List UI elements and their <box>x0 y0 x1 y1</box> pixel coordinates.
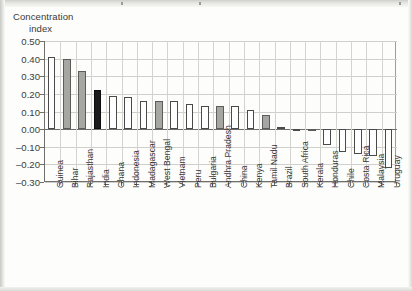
y-gridline <box>45 164 397 165</box>
y-tick-label: 0.30 <box>6 71 40 82</box>
y-tick-mark <box>40 164 44 165</box>
scan-edge-bottom <box>0 287 412 291</box>
x-tick-label: Bihar <box>70 168 80 188</box>
x-tick-label: Malaysia <box>376 154 386 188</box>
x-gridline <box>198 41 199 182</box>
y-axis-title: Concentration index <box>13 11 73 34</box>
chart-page: Concentration index 0.500.400.300.200.10… <box>0 0 412 291</box>
bar <box>124 97 132 129</box>
x-tick-label: China <box>239 165 249 188</box>
y-gridline <box>45 182 397 183</box>
y-gridline <box>45 41 397 42</box>
y-tick-label: 0.10 <box>6 106 40 117</box>
x-tick-label: Brazil <box>284 166 294 188</box>
y-tick-mark <box>40 76 44 77</box>
bar <box>247 110 255 129</box>
scan-artifact-tick <box>121 2 123 5</box>
x-tick-label: Andhra Pradesh <box>223 125 233 188</box>
x-tick-label: Kerala <box>315 163 325 188</box>
y-tick-label: 0.50 <box>6 36 40 47</box>
x-tick-label: Ghana <box>116 162 126 188</box>
x-tick-label: Guinea <box>55 160 65 188</box>
y-tick-mark <box>40 147 44 148</box>
scan-artifact-tick <box>399 2 401 5</box>
bar <box>155 101 163 129</box>
bar <box>308 129 316 131</box>
bar <box>94 90 102 129</box>
bar <box>186 104 194 129</box>
y-tick-label: –0.20 <box>6 159 40 170</box>
y-axis-title-line2: index <box>13 23 73 35</box>
y-tick-mark <box>40 112 44 113</box>
x-tick-label: Madagascar <box>147 140 157 188</box>
y-gridline <box>45 59 397 60</box>
bar <box>48 57 56 129</box>
x-gridline <box>106 41 107 182</box>
y-tick-label: –0.30 <box>6 177 40 188</box>
x-tick-label: Costa Rica <box>361 145 371 188</box>
x-gridline <box>122 41 123 182</box>
x-gridline <box>259 41 260 182</box>
x-tick-label: Rajasthan <box>85 149 95 188</box>
x-gridline <box>351 41 352 182</box>
x-tick-label: South Africa <box>300 141 310 188</box>
x-tick-label: Tamil Nadu <box>269 145 279 189</box>
x-tick-label: Peru <box>193 170 203 188</box>
bar <box>78 71 86 129</box>
bar <box>201 106 209 129</box>
y-tick-mark <box>40 41 44 42</box>
y-tick-label: 0.20 <box>6 88 40 99</box>
x-tick-label: Chile <box>346 168 356 188</box>
y-tick-mark <box>40 182 44 183</box>
x-tick-label: India <box>101 169 111 188</box>
x-tick-label: Honduras <box>330 150 340 188</box>
scan-edge-left <box>0 0 5 291</box>
bar <box>140 101 148 129</box>
bar <box>109 96 117 129</box>
y-tick-mark <box>40 59 44 60</box>
x-gridline <box>290 41 291 182</box>
y-tick-label: 0.00 <box>6 124 40 135</box>
y-gridline <box>45 76 397 77</box>
bar <box>277 127 285 129</box>
x-tick-label: Indonesia <box>131 150 141 188</box>
bar <box>262 115 270 129</box>
y-tick-mark <box>40 94 44 95</box>
scan-edge-top <box>0 0 412 7</box>
x-tick-label: Bulgaria <box>208 156 218 188</box>
x-gridline <box>244 41 245 182</box>
bar <box>323 129 331 145</box>
scan-edge-right <box>408 0 412 291</box>
x-tick-label: Vietnam <box>177 156 187 188</box>
scan-artifact-tick <box>199 2 201 5</box>
x-tick-label: West Bengal <box>162 139 172 188</box>
x-gridline <box>76 41 77 182</box>
y-axis-title-line1: Concentration <box>13 11 73 22</box>
y-tick-label: 0.40 <box>6 53 40 64</box>
y-tick-mark <box>40 129 44 130</box>
x-gridline <box>320 41 321 182</box>
y-tick-label: –0.10 <box>6 141 40 152</box>
x-tick-label: Uruguay <box>392 155 402 188</box>
bar <box>339 129 347 152</box>
x-tick-label: Kenya <box>254 163 264 188</box>
bar <box>63 59 71 130</box>
bar <box>293 129 301 131</box>
bar <box>170 101 178 129</box>
